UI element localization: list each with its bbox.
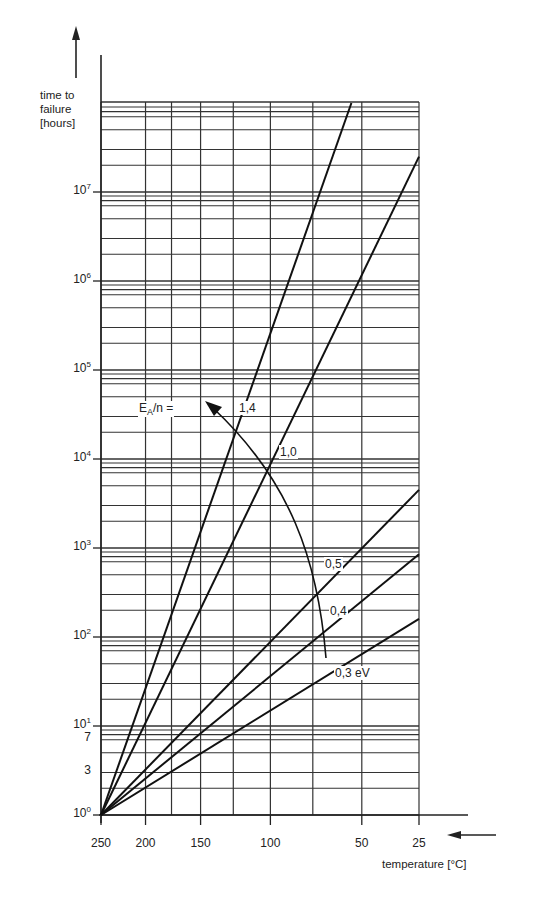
- y-tick-mantissa: 3: [84, 763, 91, 777]
- y-axis-label-line3: [hours]: [40, 116, 75, 130]
- y-tick-exponent: 0: [87, 805, 91, 814]
- y-axis-label-line1: time to: [40, 88, 75, 102]
- series-line-0.4: [101, 554, 419, 815]
- x-tick-label: 50: [355, 836, 368, 850]
- y-axis-label: time to failure [hours]: [40, 88, 75, 130]
- y-tick-mantissa: 10: [73, 272, 86, 286]
- x-tick-label: 100: [260, 836, 280, 850]
- y-tick-exponent: 2: [87, 627, 91, 636]
- y-tick-mantissa: 10: [73, 361, 86, 375]
- arrows: [205, 401, 326, 658]
- series-label: 0,5: [324, 557, 343, 571]
- series-label: 1,0: [279, 445, 298, 459]
- y-tick-label: 102: [51, 627, 91, 642]
- y-direction-arrow-head: [72, 26, 80, 40]
- series-label: 0,3 eV: [334, 666, 371, 680]
- y-tick-exponent: 1: [87, 716, 91, 725]
- y-tick-exponent: 6: [87, 271, 91, 280]
- x-tick-label: 150: [191, 836, 211, 850]
- y-tick-label: 7: [51, 730, 91, 744]
- y-tick-mantissa: 10: [73, 717, 86, 731]
- grid: [101, 102, 419, 815]
- y-tick-mantissa: 10: [73, 539, 86, 553]
- ea-label-rest: /n =: [153, 401, 173, 415]
- y-tick-exponent: 7: [87, 182, 91, 191]
- y-tick-mantissa: 7: [84, 730, 91, 744]
- y-tick-label: 101: [51, 716, 91, 731]
- y-tick-mantissa: 10: [73, 628, 86, 642]
- y-tick-label: 100: [51, 805, 91, 820]
- y-tick-label: 104: [51, 449, 91, 464]
- y-tick-label: 107: [51, 182, 91, 197]
- y-axis-label-line2: failure: [40, 102, 75, 116]
- y-tick-exponent: 3: [87, 538, 91, 547]
- ea-label-main: E: [139, 401, 147, 415]
- x-tick-label: 200: [136, 836, 156, 850]
- ea-n-label: EA/n =: [138, 401, 174, 417]
- y-tick-exponent: 5: [87, 360, 91, 369]
- series-label: 0,4: [329, 604, 348, 618]
- y-tick-label: 105: [51, 360, 91, 375]
- y-tick-label: 3: [51, 763, 91, 777]
- y-tick-exponent: 4: [87, 449, 91, 458]
- series-line-0.5: [101, 490, 419, 815]
- x-direction-arrow-head: [447, 831, 461, 839]
- y-tick-mantissa: 10: [73, 450, 86, 464]
- y-tick-mantissa: 10: [73, 806, 86, 820]
- series-label: 1,4: [238, 401, 257, 415]
- y-tick-mantissa: 10: [73, 183, 86, 197]
- x-tick-label: 25: [412, 836, 425, 850]
- y-tick-label: 106: [51, 271, 91, 286]
- x-axis-label: temperature [°C]: [382, 858, 467, 870]
- x-tick-label: 250: [91, 836, 111, 850]
- y-tick-label: 103: [51, 538, 91, 553]
